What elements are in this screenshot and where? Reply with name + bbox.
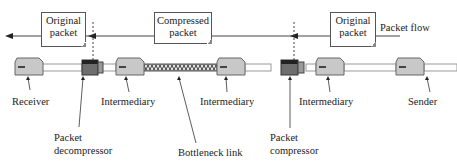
receiver-label: Receiver — [12, 95, 49, 108]
intermediary-1-label: Intermediary — [101, 95, 155, 108]
link-decompressor-intermediary — [102, 64, 116, 71]
bottleneck-label: Bottleneck link — [178, 146, 242, 159]
intermediary-1-device-icon — [116, 58, 144, 75]
link-intermediary-sender — [344, 64, 396, 71]
original-packet-right: Original packet — [330, 12, 376, 47]
compressor-label: Packet compressor — [270, 131, 318, 157]
original-packet-left: Original packet — [41, 12, 86, 47]
flow-arrowhead-icon — [88, 33, 96, 39]
compressor-device-icon — [281, 60, 304, 75]
packet-label-line1: Original — [42, 15, 85, 27]
packet-label-line1: Compressed — [155, 15, 211, 27]
decompressor-pointer — [79, 78, 83, 127]
intermediary-3-label: Intermediary — [299, 95, 353, 108]
compressor-label-line2: compressor — [270, 144, 318, 157]
decompressor-label: Packet decompressor — [54, 131, 112, 157]
intermediary-2-pointer — [226, 78, 227, 92]
compressed-packet: Compressed packet — [154, 12, 212, 44]
intermediary-3-pointer — [328, 78, 330, 92]
decompressor-device-icon — [82, 60, 103, 75]
packet-flow-label: Packet flow — [380, 21, 430, 34]
sender-device-icon — [396, 58, 424, 75]
sender-pointer — [427, 78, 430, 92]
packet-label-line2: packet — [331, 27, 375, 39]
link-sender-out — [424, 64, 457, 71]
decompressor-label-line1: Packet — [54, 131, 112, 144]
bottleneck-link — [144, 64, 217, 71]
bottleneck-pointer — [179, 78, 196, 143]
link-receiver-decompressor — [40, 64, 82, 71]
intermediary-2-label: Intermediary — [200, 95, 254, 108]
intermediary-1-pointer — [126, 78, 129, 92]
intermediary-3-device-icon — [316, 58, 344, 75]
flow-arrowhead-icon — [5, 33, 13, 39]
decompressor-label-line2: decompressor — [54, 144, 112, 157]
sender-label: Sender — [408, 95, 437, 108]
receiver-device-icon — [15, 58, 43, 75]
packet-label-line1: Original — [331, 15, 375, 27]
intermediary-2-device-icon — [217, 58, 245, 75]
compressor-label-line1: Packet — [270, 131, 318, 144]
packet-label-line2: packet — [155, 27, 211, 39]
packet-label-line2: packet — [42, 27, 85, 39]
link-compressor-intermediary — [306, 64, 316, 71]
link-intermediary-compressor — [245, 64, 271, 71]
